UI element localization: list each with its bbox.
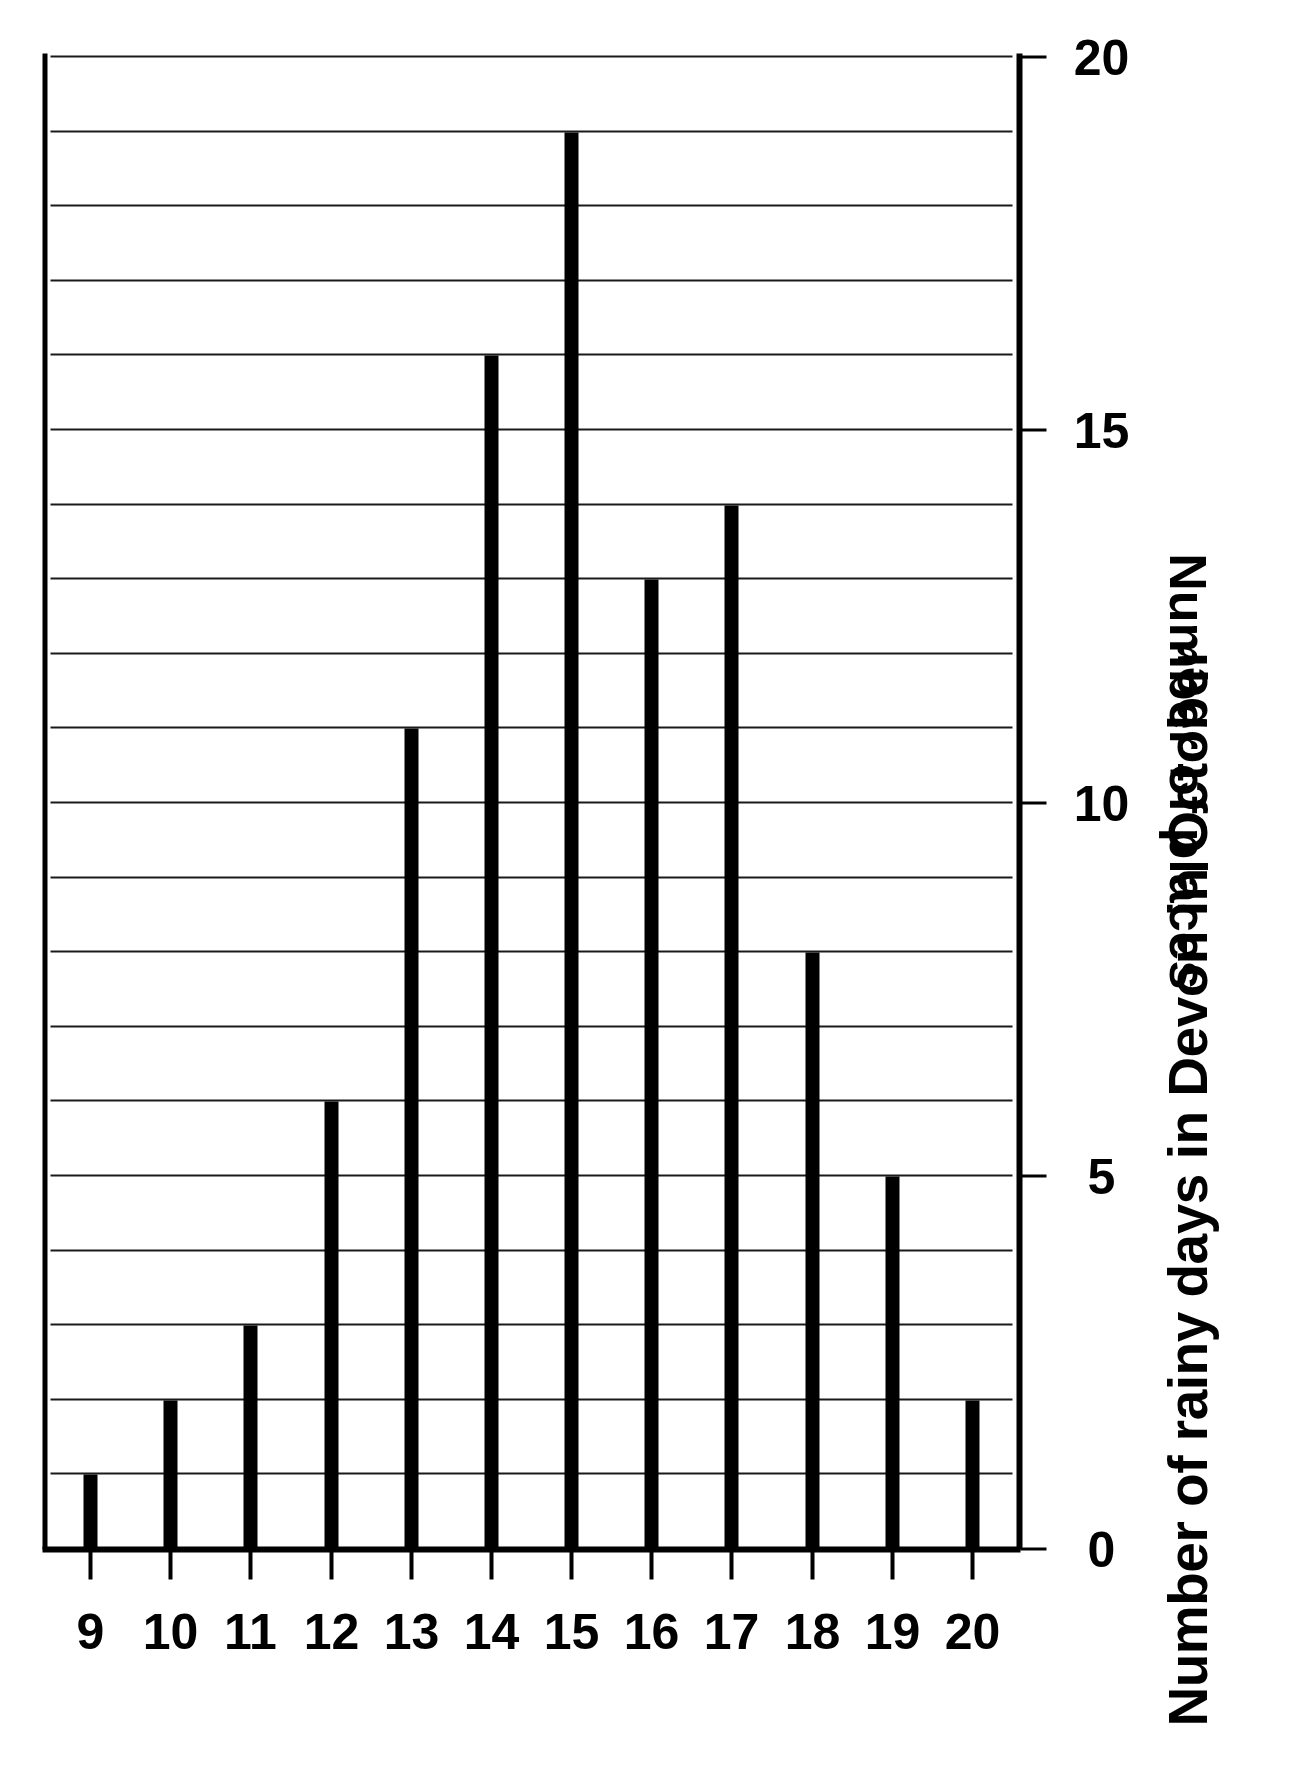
value-tick-label: 0 [1087,1520,1115,1578]
gridline [50,1472,1012,1474]
gridline [50,1398,1012,1400]
plot-top-border [42,53,47,1549]
bar [243,1325,257,1549]
category-tick-label: 20 [942,1602,1002,1660]
category-tick [88,1551,92,1579]
gridline [50,204,1012,206]
category-tick-label: 14 [461,1602,521,1660]
category-tick-label: 17 [701,1602,761,1660]
category-tick-label: 9 [60,1602,120,1660]
value-tick-label: 20 [1073,28,1129,86]
bar [885,1176,899,1549]
bar [484,355,498,1549]
bar [724,505,738,1549]
bar [324,1101,338,1549]
category-tick [810,1551,814,1579]
category-tick [489,1551,493,1579]
category-tick-label: 18 [782,1602,842,1660]
bar [644,579,658,1549]
value-tick [1020,801,1046,804]
category-tick-label: 12 [301,1602,361,1660]
bar-chart-figure: Number of rainy days in Devon in October… [0,0,1297,1771]
category-tick [970,1551,974,1579]
gridline [50,1174,1012,1176]
bar [83,1474,97,1549]
category-tick [409,1551,413,1579]
gridline [50,130,1012,132]
gridline [50,1025,1012,1027]
value-tick-label: 15 [1073,401,1129,459]
category-tick-label: 15 [541,1602,601,1660]
category-tick-label: 19 [862,1602,922,1660]
gridline [50,353,1012,355]
category-tick [729,1551,733,1579]
value-axis-title: Number of places [1157,553,1217,989]
value-tick-label: 5 [1087,1147,1115,1205]
category-tick [569,1551,573,1579]
gridline [50,1249,1012,1251]
bar [965,1400,979,1549]
value-tick-label: 10 [1073,774,1129,832]
category-tick [329,1551,333,1579]
gridline [50,1323,1012,1325]
category-tick [649,1551,653,1579]
plot-area: 05101520 91011121314151617181920 Number … [50,57,1012,1549]
gridline [50,950,1012,952]
value-tick [1020,55,1046,58]
gridline [50,876,1012,878]
gridline [50,726,1012,728]
category-tick-label: 16 [621,1602,681,1660]
value-tick [1020,1547,1046,1550]
gridline [50,279,1012,281]
value-axis-line [42,1546,1020,1552]
rotated-figure-wrapper: Number of rainy days in Devon in October… [0,0,1297,1771]
bar [564,132,578,1549]
gridline [50,577,1012,579]
bar [404,728,418,1549]
gridline [50,801,1012,803]
category-tick-label: 11 [220,1602,280,1660]
gridline [50,55,1012,57]
gridline [50,1099,1012,1101]
value-tick [1020,1174,1046,1177]
category-tick [248,1551,252,1579]
bar [805,952,819,1549]
value-tick [1020,428,1046,431]
gridline [50,503,1012,505]
category-tick [168,1551,172,1579]
category-tick-label: 10 [140,1602,200,1660]
gridline [50,428,1012,430]
bar [163,1400,177,1549]
category-tick-label: 13 [381,1602,441,1660]
category-tick [890,1551,894,1579]
gridline [50,652,1012,654]
